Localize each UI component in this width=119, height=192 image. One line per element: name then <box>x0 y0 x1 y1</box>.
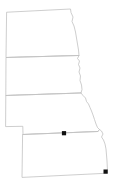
state-outline-north-dakota[interactable] <box>6 9 79 58</box>
map-canvas <box>0 0 119 192</box>
state-outline-nebraska[interactable] <box>6 93 100 135</box>
state-outlines-group <box>6 9 108 177</box>
state-outline-south-dakota[interactable] <box>6 56 82 96</box>
map-figure: Great Plains states outline map <box>0 0 119 192</box>
marker-kansas[interactable] <box>104 170 108 174</box>
marker-nebraska[interactable] <box>62 131 66 135</box>
state-outline-kansas[interactable] <box>22 130 107 178</box>
